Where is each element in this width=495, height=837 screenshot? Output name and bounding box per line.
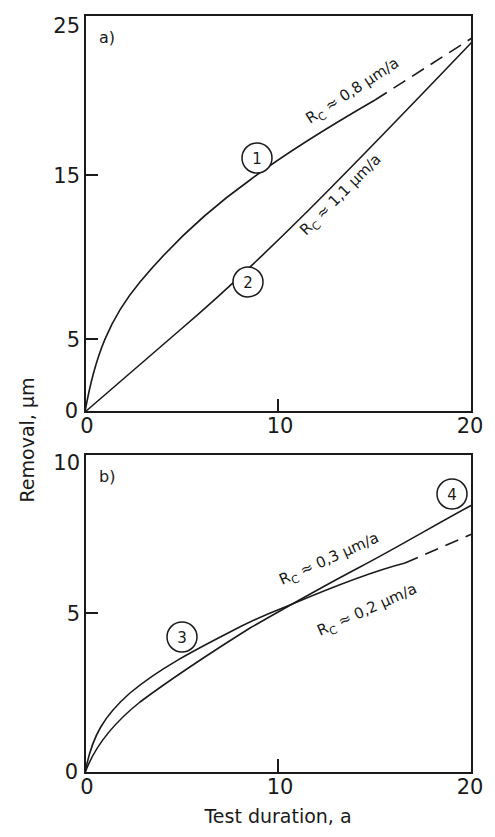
curve-1 (85, 100, 375, 412)
curve-3 (85, 563, 405, 773)
marker-4-label: 4 (447, 486, 457, 504)
panel-b-ytick-label: 10 (53, 451, 80, 475)
curve-2 (85, 42, 472, 412)
panel-b-xtick-label: 0 (80, 775, 93, 799)
annotation-rc-2: RC ≈ 1,1 µm/a (296, 150, 387, 241)
panel-b-ytick-label: 5 (67, 602, 80, 626)
panel-a-xtick-label: 0 (80, 414, 93, 438)
panel-a-ytick-label: 25 (53, 14, 80, 38)
panel-a-tag: a) (99, 28, 115, 47)
panel-b-ytick-label: 0 (65, 760, 78, 784)
panel-a-xtick-label: 20 (457, 414, 484, 438)
annotation-rc-1: RC ≈ 0,8 µm/a (302, 54, 403, 130)
panel-a-ytick-label: 0 (65, 399, 78, 423)
curve-3-extrapolated (405, 534, 472, 563)
panel-b-xtick-label: 10 (267, 775, 294, 799)
marker-3-label: 3 (177, 629, 187, 647)
annotation-rc-4: RC ≈ 0,3 µm/a (276, 529, 383, 592)
removal-chart: 25 15 5 0 0 10 20 a) 1 2 RC ≈ 0,8 µm/a R… (0, 0, 495, 837)
panel-a-xtick-label: 10 (267, 414, 294, 438)
panel-b-tag: b) (99, 467, 115, 486)
panel-a-ytick-label: 15 (53, 164, 80, 188)
y-axis-title: Removal, µm (16, 377, 38, 502)
panel-b: 10 5 0 0 10 20 b) 3 4 RC ≈ 0,3 µm/a RC ≈… (53, 451, 483, 799)
panel-b-xtick-label: 20 (457, 775, 484, 799)
panel-a-ytick-label: 5 (67, 328, 80, 352)
curve-4 (85, 505, 472, 773)
x-axis-title: Test duration, a (203, 805, 351, 827)
panel-a: 25 15 5 0 0 10 20 a) 1 2 RC ≈ 0,8 µm/a R… (53, 14, 483, 438)
marker-2-label: 2 (243, 274, 253, 292)
marker-1-label: 1 (252, 150, 262, 168)
panel-b-frame (85, 454, 472, 773)
